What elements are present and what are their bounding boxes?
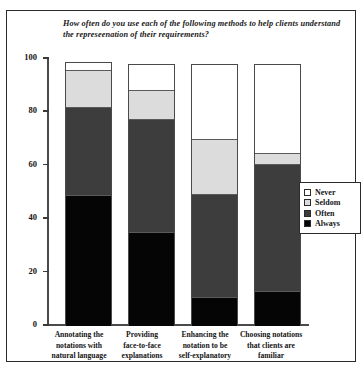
y-tick-label-0: 0 xyxy=(33,319,37,329)
y-tick-60: 60 xyxy=(43,164,49,166)
bar-1-segment-often xyxy=(66,107,111,195)
y-tick-label-60: 60 xyxy=(29,159,38,169)
bar-3-segment-always xyxy=(192,297,237,326)
legend-item-never[interactable]: Never xyxy=(304,188,357,197)
bar-4-segment-always xyxy=(255,291,300,326)
bar-2-segment-seldom xyxy=(129,90,174,119)
y-tick-label-40: 40 xyxy=(29,212,38,222)
bar-2-segment-always xyxy=(129,232,174,326)
x-axis-label-4-line-1: Choosing notations xyxy=(231,330,311,341)
bar-1-segment-seldom xyxy=(66,70,111,107)
y-tick-label-100: 100 xyxy=(24,52,37,62)
chart-legend: Never Seldom Often Always xyxy=(299,182,361,234)
legend-item-often[interactable]: Often xyxy=(304,209,357,218)
y-tick-100: 100 xyxy=(43,57,49,59)
y-tick-80: 80 xyxy=(43,110,49,112)
bar-4-segment-often xyxy=(255,164,300,291)
legend-label-always: Always xyxy=(315,219,340,228)
bar-1-segment-always xyxy=(66,195,111,326)
bar-1-segment-never xyxy=(66,63,111,70)
stacked-bar-3[interactable] xyxy=(191,64,238,324)
x-axis-label-4-line-3: familiar xyxy=(231,351,311,362)
y-tick-20: 20 xyxy=(43,271,49,273)
bar-4-segment-never xyxy=(255,65,300,154)
y-tick-0: 0 xyxy=(43,324,49,326)
chart-title-line-1: How often do you use each of the followi… xyxy=(63,19,298,28)
legend-label-never: Never xyxy=(315,188,335,197)
legend-label-seldom: Seldom xyxy=(315,198,340,207)
stacked-bar-2[interactable] xyxy=(128,64,175,324)
chart-title: How often do you use each of the followi… xyxy=(63,19,343,40)
legend-item-seldom[interactable]: Seldom xyxy=(304,198,357,207)
legend-swatch-always-icon xyxy=(304,220,311,227)
bar-3-segment-often xyxy=(192,194,237,297)
bar-2-segment-often xyxy=(129,119,174,233)
stacked-bar-4[interactable] xyxy=(254,64,301,324)
legend-swatch-seldom-icon xyxy=(304,199,311,206)
legend-item-always[interactable]: Always xyxy=(304,219,357,228)
y-tick-40: 40 xyxy=(43,217,49,219)
legend-swatch-never-icon xyxy=(304,189,311,196)
bar-4-segment-seldom xyxy=(255,153,300,163)
bar-3-segment-seldom xyxy=(192,139,237,194)
y-axis-line xyxy=(47,57,49,324)
legend-swatch-often-icon xyxy=(304,210,311,217)
chart-container: How often do you use each of the followi… xyxy=(6,10,356,362)
legend-label-often: Often xyxy=(315,209,335,218)
y-tick-label-80: 80 xyxy=(29,105,38,115)
bar-2-segment-never xyxy=(129,65,174,90)
stacked-bar-1[interactable] xyxy=(65,62,112,324)
plot-area: 100 80 60 40 20 0 xyxy=(47,57,309,324)
x-axis-label-4: Choosing notations that clients are fami… xyxy=(231,330,311,362)
y-tick-label-20: 20 xyxy=(29,266,38,276)
bar-3-segment-never xyxy=(192,65,237,139)
x-axis-label-4-line-2: that clients are xyxy=(231,341,311,352)
